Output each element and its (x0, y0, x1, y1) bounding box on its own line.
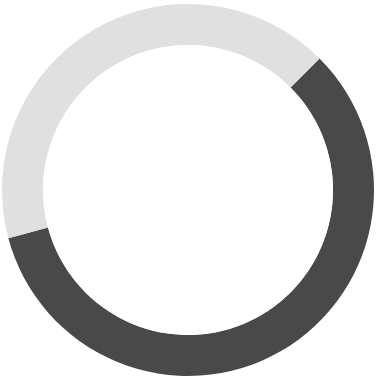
donut-chart-svg (0, 0, 385, 386)
donut-center-hole (43, 45, 333, 335)
donut-chart-figure (0, 0, 385, 386)
